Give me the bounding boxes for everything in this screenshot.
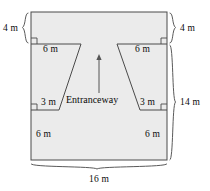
entranceway-label: Entranceway — [66, 95, 118, 105]
label-right-total-height: 14 m — [180, 98, 200, 108]
label-lower-left-width: 6 m — [36, 130, 51, 140]
right-brace-14m — [170, 45, 176, 160]
label-upper-right-width: 6 m — [135, 45, 150, 55]
label-lower-right-width: 6 m — [145, 130, 160, 140]
right-brace-4m — [170, 13, 176, 43]
label-top-left-height: 4 m — [3, 24, 18, 34]
label-upper-left-width: 6 m — [43, 45, 58, 55]
label-top-right-height: 4 m — [180, 24, 195, 34]
label-middle-left-width: 3 m — [41, 98, 56, 108]
bottom-brace-16m — [31, 164, 167, 169]
left-brace-4m — [23, 13, 29, 43]
label-bottom-total-width: 16 m — [89, 175, 109, 185]
entranceway-figure: 4 m 4 m 6 m 6 m 3 m 3 m 6 m 6 m 14 m 16 … — [0, 0, 210, 191]
label-middle-right-width: 3 m — [140, 98, 155, 108]
